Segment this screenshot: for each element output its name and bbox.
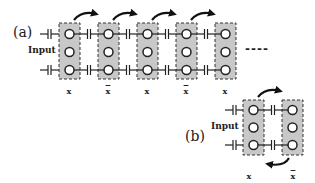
panel-b-input-label: Input — [211, 121, 239, 131]
transfer-arrows-a — [74, 13, 213, 20]
panel-a — [40, 13, 236, 79]
column-a-3-label: x — [141, 86, 153, 96]
column-a-5-label: x — [219, 86, 231, 96]
panel-a-label: (a) — [13, 24, 32, 40]
column-b-2 — [282, 100, 303, 155]
column-a-2-label: x — [102, 86, 114, 96]
continuation-dots: ---- — [245, 42, 269, 56]
column-b-2-label: x — [287, 171, 299, 181]
column-a-4-label: x — [180, 86, 192, 96]
column-b-1-label: x — [243, 171, 255, 181]
diagram-canvas — [0, 0, 315, 183]
panel-a-input-label: Input — [28, 45, 56, 55]
column-b-1 — [243, 100, 264, 155]
column-a-1-label: x — [63, 86, 75, 96]
panel-b-label: (b) — [185, 128, 205, 144]
